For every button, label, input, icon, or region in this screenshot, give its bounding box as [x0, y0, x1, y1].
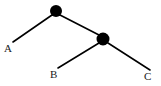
- tree-diagram: A B C: [0, 0, 161, 86]
- edge-root-to-internal: [60, 15, 99, 35]
- leaf-label-a: A: [4, 43, 12, 54]
- tree-graphic: [0, 0, 161, 86]
- edge-root-to-a: [13, 15, 52, 42]
- internal-node: [97, 33, 110, 46]
- leaf-label-b: B: [50, 69, 57, 80]
- edge-internal-to-b: [58, 43, 99, 68]
- edge-internal-to-c: [108, 43, 150, 70]
- root-node: [50, 5, 62, 17]
- leaf-label-c: C: [144, 71, 151, 82]
